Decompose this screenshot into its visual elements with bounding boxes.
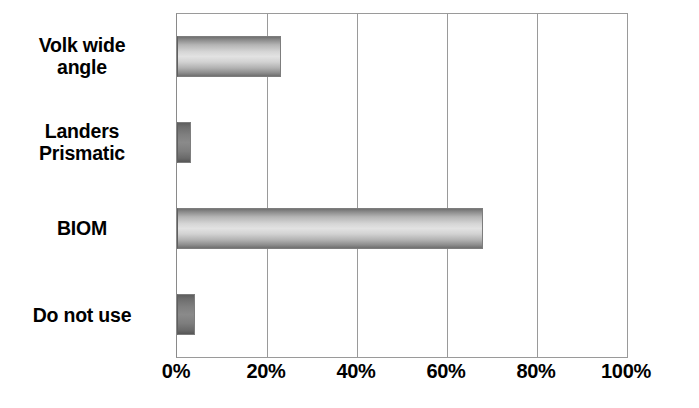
x-tick-label-0%: 0% (162, 360, 190, 383)
category-cell: Volk wide angle (0, 13, 172, 99)
x-tick-label-60%: 60% (426, 360, 465, 383)
x-tick-label-40%: 40% (336, 360, 375, 383)
category-label-do-not-use: Do not use (33, 304, 132, 327)
bar-row (177, 271, 627, 357)
category-cell: Landers Prismatic (0, 99, 172, 185)
bar-volk-wide-angle (177, 36, 281, 77)
category-cell: BIOM (0, 186, 172, 272)
bar-row (177, 100, 627, 186)
bar-biom (177, 208, 483, 249)
category-label-landers-prismatic: Landers Prismatic (39, 120, 125, 165)
bar-row (177, 186, 627, 272)
category-label-biom: BIOM (57, 217, 107, 240)
bars-layer (177, 14, 627, 357)
bar-do-not-use (177, 294, 195, 335)
x-tick-label-100%: 100% (601, 360, 651, 383)
category-cell: Do not use (0, 272, 172, 358)
x-tick-label-80%: 80% (516, 360, 555, 383)
category-label-volk-wide-angle: Volk wide angle (39, 34, 126, 79)
bar-row (177, 14, 627, 100)
category-axis: Volk wide angle Landers Prismatic BIOM D… (0, 13, 172, 358)
x-tick-label-20%: 20% (246, 360, 285, 383)
value-axis: 0%20%40%60%80%100% (176, 360, 628, 400)
bar-chart: Volk wide angle Landers Prismatic BIOM D… (0, 0, 699, 408)
bar-landers-prismatic (177, 122, 191, 163)
plot-area (176, 13, 628, 358)
